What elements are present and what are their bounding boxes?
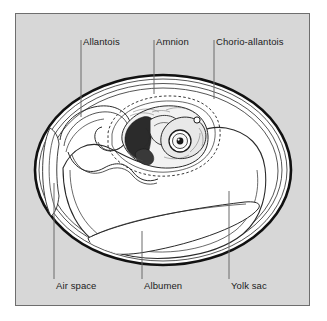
label-albumen: Albumen bbox=[144, 280, 182, 291]
label-amnion: Amnion bbox=[156, 36, 189, 47]
label-yolk-sac: Yolk sac bbox=[231, 280, 267, 291]
label-chorio-allantois: Chorio-allantois bbox=[216, 36, 284, 47]
egg-diagram-svg bbox=[0, 0, 327, 321]
egg-anatomy-figure: Allantois Amnion Chorio-allantois Air sp… bbox=[0, 0, 327, 321]
label-allantois: Allantois bbox=[83, 36, 120, 47]
label-air-space: Air space bbox=[56, 280, 97, 291]
